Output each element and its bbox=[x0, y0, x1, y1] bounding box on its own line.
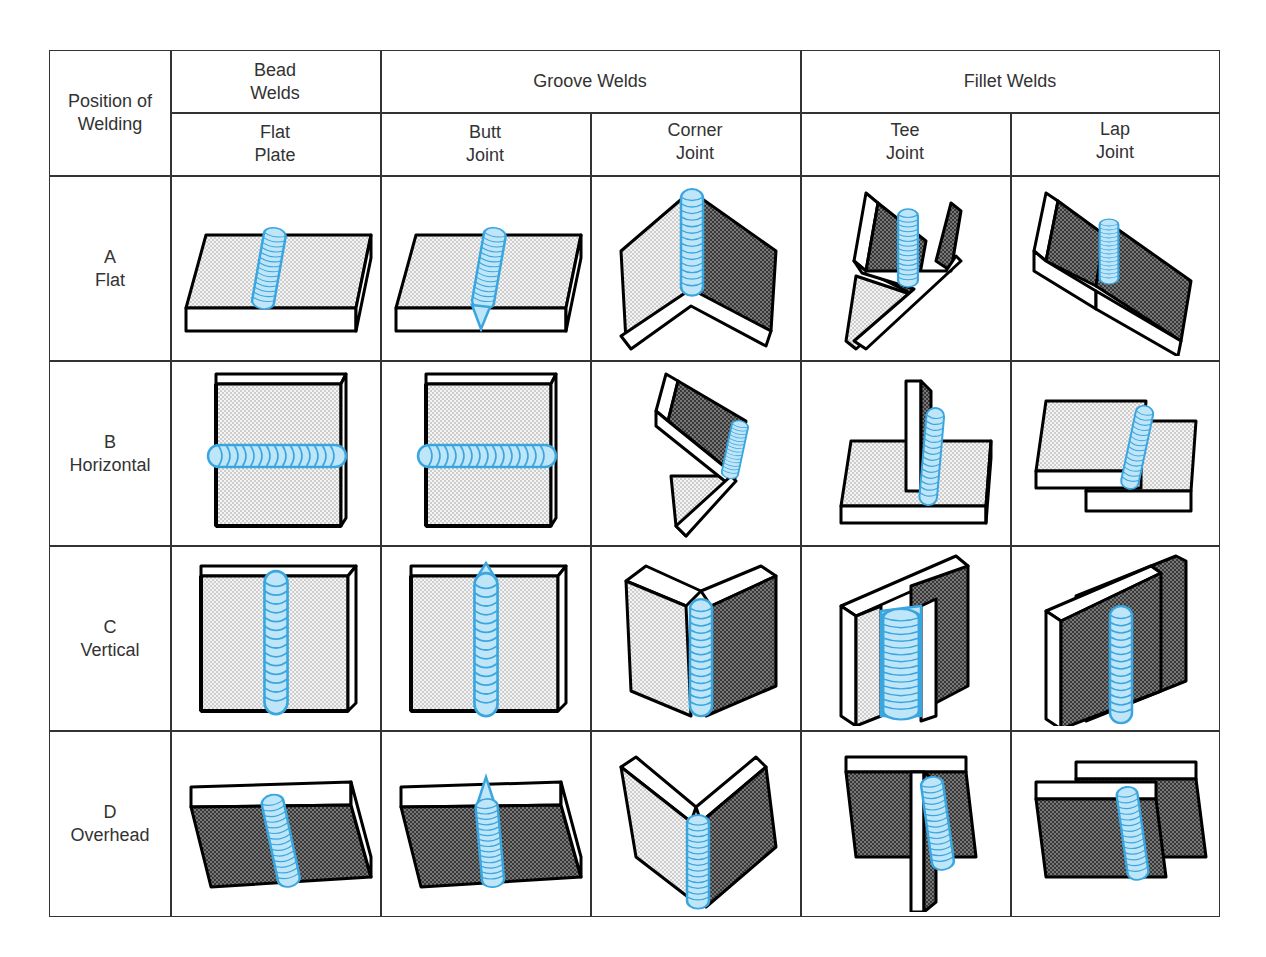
row-header-title: Position of Welding bbox=[68, 90, 152, 136]
row-label-overhead: D Overhead bbox=[50, 731, 170, 917]
column-label: Lap Joint bbox=[1096, 118, 1134, 164]
flat-plate-bead-flat-illustration bbox=[171, 176, 380, 360]
tee-joint-horizontal-illustration bbox=[801, 361, 1010, 545]
column-header-flat-plate: Flat Plate bbox=[170, 112, 380, 175]
butt-joint-vertical-illustration bbox=[381, 546, 590, 730]
lap-joint-vertical-illustration bbox=[1011, 546, 1220, 730]
butt-joint-overhead-illustration bbox=[381, 731, 590, 917]
row-label: B Horizontal bbox=[69, 431, 150, 477]
row-header-title-cell: Position of Welding bbox=[50, 51, 170, 175]
tee-joint-flat-illustration bbox=[801, 176, 1010, 360]
butt-joint-flat-illustration bbox=[381, 176, 590, 360]
flat-plate-bead-vertical-illustration bbox=[171, 546, 380, 730]
flat-plate-bead-overhead-illustration bbox=[171, 731, 380, 917]
column-label: Butt Joint bbox=[466, 121, 504, 167]
corner-joint-flat-illustration bbox=[591, 176, 800, 360]
row-label: C Vertical bbox=[80, 616, 139, 662]
group-label: Fillet Welds bbox=[964, 70, 1057, 93]
group-header-bead-welds: Bead Welds bbox=[170, 51, 380, 112]
group-header-fillet-welds: Fillet Welds bbox=[800, 51, 1220, 112]
column-header-tee-joint: Tee Joint bbox=[800, 112, 1010, 172]
lap-joint-overhead-illustration bbox=[1011, 731, 1220, 917]
column-header-butt-joint: Butt Joint bbox=[380, 112, 590, 175]
column-label: Tee Joint bbox=[886, 119, 924, 165]
row-label: A Flat bbox=[95, 246, 125, 292]
column-header-lap-joint: Lap Joint bbox=[1010, 112, 1220, 170]
group-label: Bead Welds bbox=[250, 59, 300, 105]
row-label-flat: A Flat bbox=[50, 176, 170, 361]
group-header-groove-welds: Groove Welds bbox=[380, 51, 800, 112]
column-header-corner-joint: Corner Joint bbox=[590, 112, 800, 172]
corner-joint-vertical-illustration bbox=[591, 546, 800, 730]
butt-joint-horizontal-illustration bbox=[381, 361, 590, 545]
flat-plate-bead-horizontal-illustration bbox=[171, 361, 380, 545]
corner-joint-overhead-illustration bbox=[591, 731, 800, 917]
corner-joint-horizontal-illustration bbox=[591, 361, 800, 545]
column-label: Flat Plate bbox=[254, 121, 295, 167]
welding-positions-table: Position of Welding Bead Welds Groove We… bbox=[49, 50, 1220, 917]
lap-joint-horizontal-illustration bbox=[1011, 361, 1220, 545]
group-label: Groove Welds bbox=[533, 70, 647, 93]
lap-joint-flat-illustration bbox=[1011, 176, 1220, 360]
row-label: D Overhead bbox=[70, 801, 149, 847]
tee-joint-vertical-illustration bbox=[801, 546, 1010, 730]
row-label-horizontal: B Horizontal bbox=[50, 361, 170, 546]
tee-joint-overhead-illustration bbox=[801, 731, 1010, 917]
column-label: Corner Joint bbox=[667, 119, 722, 165]
row-label-vertical: C Vertical bbox=[50, 546, 170, 731]
